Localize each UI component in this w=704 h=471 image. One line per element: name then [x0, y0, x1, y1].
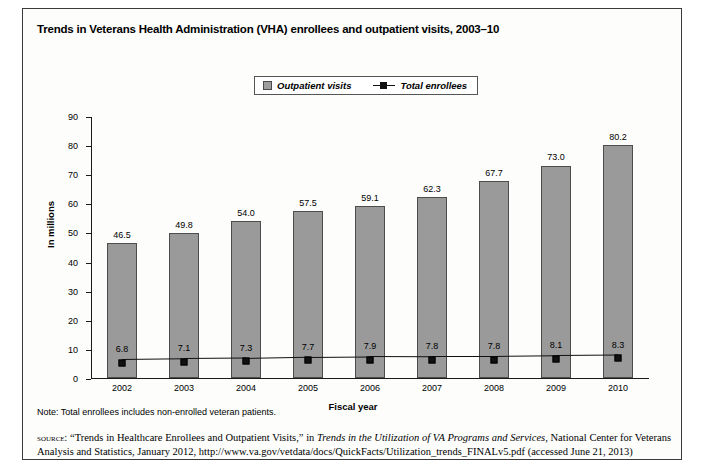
line-value-label: 7.1 [178, 343, 191, 353]
source-keyword: source: [37, 433, 67, 443]
x-axis-tick-label: 2008 [484, 383, 504, 393]
bar-value-label: 46.5 [113, 230, 131, 240]
bar-value-label: 49.8 [175, 220, 193, 230]
source-text-1: “Trends in Healthcare Enrollees and Outp… [67, 432, 317, 443]
y-axis-tick-label: 80 [68, 141, 78, 151]
bar [231, 221, 261, 378]
line-segment [308, 356, 370, 358]
bar [169, 233, 199, 378]
x-axis-line [91, 378, 649, 379]
bar [107, 243, 137, 378]
y-axis-tick-label: 20 [68, 316, 78, 326]
line-marker [429, 356, 436, 363]
line-value-label: 6.8 [116, 344, 129, 354]
source-title-italic: Trends in the Utilization of VA Programs… [317, 432, 545, 443]
y-axis-tick: 50 [86, 233, 91, 234]
line-value-label: 7.7 [302, 342, 315, 352]
y-axis-title: In millions [45, 201, 56, 248]
x-axis-tick-label: 2004 [236, 383, 256, 393]
source-citation: source: “Trends in Healthcare Enrollees … [37, 431, 671, 459]
bar-value-label: 73.0 [547, 152, 565, 162]
y-axis-tick: 70 [86, 175, 91, 176]
line-value-label: 7.9 [364, 341, 377, 351]
y-axis-tick: 0 [86, 379, 91, 380]
y-axis-tick: 80 [86, 146, 91, 147]
y-axis-tick: 90 [86, 117, 91, 118]
line-marker [305, 357, 312, 364]
bar-value-label: 80.2 [609, 132, 627, 142]
line-marker [119, 359, 126, 366]
y-axis-tick-label: 90 [68, 112, 78, 122]
line-value-label: 8.1 [550, 340, 563, 350]
line-marker [553, 355, 560, 362]
bar-value-label: 57.5 [299, 198, 317, 208]
chart-plot-area: In millions Fiscal year 0102030405060708… [23, 9, 683, 461]
y-axis-tick: 20 [86, 321, 91, 322]
x-axis-tick-label: 2009 [546, 383, 566, 393]
axes: 0102030405060708090 46.549.854.057.559.1… [91, 117, 649, 379]
x-axis-tick-label: 2010 [608, 383, 628, 393]
x-axis-tick-label: 2003 [174, 383, 194, 393]
x-axis-tick-label: 2002 [112, 383, 132, 393]
y-axis-tick: 60 [86, 204, 91, 205]
line-marker [243, 358, 250, 365]
bar [293, 211, 323, 378]
line-value-label: 8.3 [612, 340, 625, 350]
line-marker [615, 355, 622, 362]
y-axis-tick-label: 10 [68, 345, 78, 355]
y-axis-tick-label: 40 [68, 258, 78, 268]
bar [355, 206, 385, 378]
y-axis-tick-label: 70 [68, 170, 78, 180]
line-value-label: 7.3 [240, 343, 253, 353]
y-axis-tick: 40 [86, 263, 91, 264]
y-axis-tick: 10 [86, 350, 91, 351]
y-axis-tick-label: 60 [68, 199, 78, 209]
line-marker [181, 358, 188, 365]
line-value-label: 7.8 [426, 341, 439, 351]
bar-value-label: 59.1 [361, 193, 379, 203]
x-axis-tick-label: 2006 [360, 383, 380, 393]
x-axis-tick-label: 2005 [298, 383, 318, 393]
bar-value-label: 62.3 [423, 184, 441, 194]
line-marker [367, 356, 374, 363]
y-axis-tick-label: 30 [68, 287, 78, 297]
line-marker [491, 356, 498, 363]
y-axis-tick-label: 0 [73, 374, 78, 384]
line-value-label: 7.8 [488, 341, 501, 351]
x-axis-tick-label: 2007 [422, 383, 442, 393]
chart-note: Note: Total enrollees includes non-enrol… [37, 407, 276, 417]
y-axis-line [91, 117, 92, 379]
line-segment [432, 356, 494, 357]
y-axis-tick-label: 50 [68, 228, 78, 238]
bar-value-label: 54.0 [237, 208, 255, 218]
bar-value-label: 67.7 [485, 168, 503, 178]
y-axis-tick: 30 [86, 292, 91, 293]
figure-frame: Trends in Veterans Health Administration… [22, 8, 682, 460]
